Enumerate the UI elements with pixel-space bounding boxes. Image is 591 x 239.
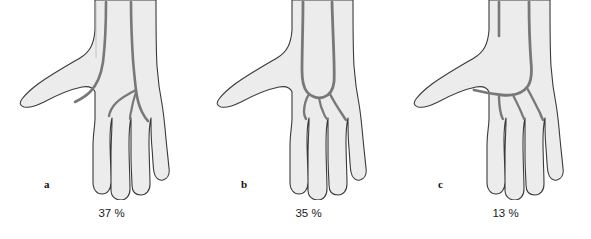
- hand-palm-icon-b: [197, 0, 394, 200]
- hand-outline-b: [217, 0, 366, 200]
- panel-letter-a: a: [44, 177, 50, 191]
- panel-b: b 35 %: [197, 0, 394, 239]
- hand-outline-c: [414, 0, 563, 200]
- panel-percent-a: 37 %: [0, 206, 197, 221]
- panel-c: c 13 %: [394, 0, 591, 239]
- hand-outline-a: [20, 0, 169, 200]
- figure-container: a 37 % b 35 %: [0, 0, 591, 239]
- panel-percent-c: 13 %: [394, 206, 591, 221]
- panel-a: a 37 %: [0, 0, 197, 239]
- hand-palm-icon-a: [0, 0, 197, 200]
- hand-palm-icon-c: [394, 0, 591, 200]
- panel-percent-b: 35 %: [197, 206, 394, 221]
- panel-letter-b: b: [241, 177, 247, 191]
- panel-letter-c: c: [438, 177, 443, 191]
